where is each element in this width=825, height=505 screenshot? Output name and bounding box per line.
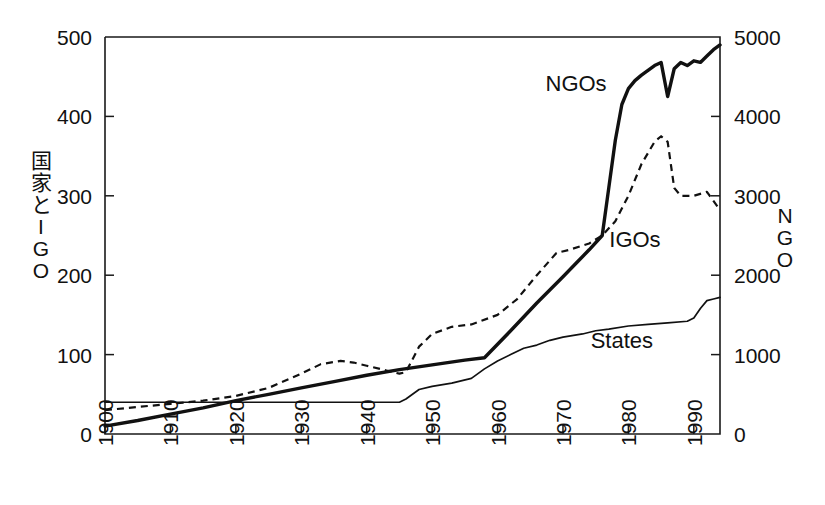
- series-annotations: NGOsIGOsStates: [546, 71, 661, 353]
- axis-title-char: G: [772, 227, 798, 249]
- axis-title-char: O: [28, 260, 54, 282]
- series-label-igos: IGOs: [609, 227, 660, 252]
- y-ticklabel-right: 1000: [734, 344, 781, 367]
- x-ticklabel: 1950: [421, 399, 444, 446]
- x-ticklabel: 1940: [356, 399, 379, 446]
- x-ticklabel: 1960: [487, 399, 510, 446]
- axis-title-char: G: [28, 238, 54, 260]
- tick-marks: [105, 116, 720, 434]
- x-ticklabel: 1900: [94, 399, 117, 446]
- x-ticklabel: 1910: [159, 399, 182, 446]
- y-ticklabel-left: 400: [57, 105, 92, 128]
- y-ticklabel-left: 300: [57, 185, 92, 208]
- line-chart: 0100200300400500010002000300040005000190…: [0, 0, 825, 505]
- y-ticklabel-left: 200: [57, 264, 92, 287]
- axis-title-char: 家: [28, 172, 54, 194]
- x-ticklabel: 1980: [617, 399, 640, 446]
- y-ticklabel-left: 0: [80, 423, 92, 446]
- x-ticklabel: 1990: [683, 399, 706, 446]
- series-label-ngos: NGOs: [546, 71, 607, 96]
- x-ticklabel: 1920: [225, 399, 248, 446]
- series-label-states: States: [591, 328, 653, 353]
- y-ticklabel-right: 0: [734, 423, 746, 446]
- axis-title-char: と: [28, 194, 54, 216]
- y-ticklabel-left: 100: [57, 344, 92, 367]
- y-axis-label-right: NGO: [772, 205, 798, 271]
- y-ticklabel-left: 500: [57, 26, 92, 49]
- chart-figure: 0100200300400500010002000300040005000190…: [0, 0, 825, 505]
- y-ticklabel-right: 5000: [734, 26, 781, 49]
- x-ticklabel: 1930: [290, 399, 313, 446]
- axis-title-char: O: [772, 249, 798, 271]
- axis-title-char: 国: [28, 150, 54, 172]
- y-ticklabel-right: 4000: [734, 105, 781, 128]
- axis-title-char: I: [28, 216, 54, 238]
- y-axis-label-left: 国家とIGO: [28, 150, 54, 282]
- tick-labels: 0100200300400500010002000300040005000190…: [57, 26, 781, 446]
- x-ticklabel: 1970: [552, 399, 575, 446]
- axis-title-char: N: [772, 205, 798, 227]
